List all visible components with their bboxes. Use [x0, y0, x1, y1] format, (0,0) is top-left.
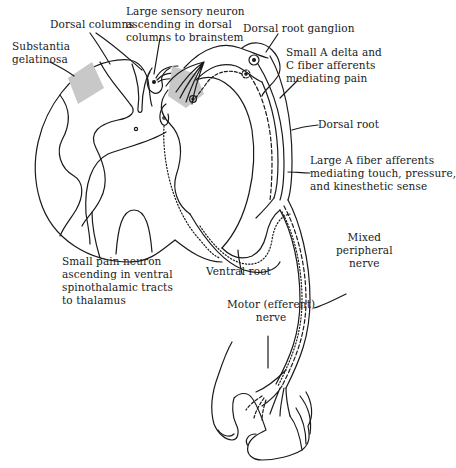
label-ventral-root: Ventral root	[206, 265, 271, 278]
label-dorsal-root: Dorsal root	[318, 118, 379, 131]
label-motor-efferent-nerve: Motor (efferent) nerve	[227, 298, 315, 324]
pain-projection-neuron-nucleus	[163, 117, 165, 119]
label-large-sensory-neuron: Large sensory neuron ascending in dorsal…	[126, 5, 245, 44]
ganglion-cell-small-nucleus	[245, 73, 247, 75]
hand-finger-lines	[290, 396, 311, 450]
gray-matter-left-outer	[59, 95, 81, 236]
ventral-median-fissure	[116, 210, 152, 254]
dorsal-horn-small-neuron-nucleus	[192, 98, 194, 100]
root-junction	[256, 198, 274, 218]
crossing-fibre	[86, 132, 166, 244]
label-mixed-peripheral-nerve: Mixed peripheral nerve	[336, 231, 393, 270]
substantia-gelatinosa-shade	[68, 62, 104, 104]
leader-dorsal-root	[292, 125, 318, 130]
leader-mixed-peripheral-nerve	[314, 294, 346, 308]
hand-outline	[212, 342, 312, 460]
spinothalamic-tract-dotted	[164, 126, 220, 258]
label-substantia-gelatinosa: Substantia gelatinosa	[12, 40, 70, 66]
label-small-pain-neuron: Small pain neuron ascending in ventral s…	[62, 255, 173, 307]
gray-matter-right	[162, 90, 191, 214]
label-small-a-delta-c-fibers: Small A delta and C fiber afferents medi…	[286, 46, 382, 85]
ganglion-cell-large-nucleus	[253, 59, 256, 62]
label-dorsal-columns: Dorsal columns	[50, 18, 134, 31]
hand-thumb-tip	[218, 430, 234, 436]
label-dorsal-root-ganglion: Dorsal root ganglion	[243, 22, 355, 35]
label-large-a-fiber-afferents: Large A fiber afferents mediating touch,…	[310, 154, 456, 193]
leader-small-pain-neuron	[92, 212, 100, 258]
large-sensory-neuron-nucleus	[153, 81, 156, 84]
dorsal-root-inner-line	[262, 82, 278, 198]
ventral-root-inner	[222, 210, 280, 258]
central-canal	[134, 127, 137, 130]
motor-fibre-dashed-ends	[246, 396, 266, 420]
spinal-cord-outline-right	[196, 78, 254, 248]
ventral-root-outer	[190, 214, 280, 272]
large-sensory-neuron-body	[147, 68, 170, 93]
ventral-root-dotted-fibre	[200, 214, 290, 264]
